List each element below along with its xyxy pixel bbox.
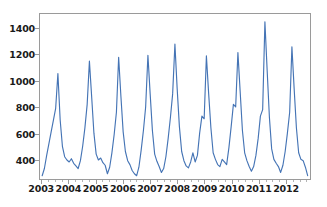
plot-area (39, 13, 311, 180)
y-tick-label-400: 400 (1, 155, 35, 166)
x-tick-label-2007: 2007 (137, 183, 163, 194)
x-minor-tick-mark (109, 180, 110, 182)
x-minor-tick-mark (245, 180, 246, 182)
x-tick-label-2012: 2012 (273, 183, 299, 194)
y-tick-label-1400: 1400 (1, 22, 35, 33)
x-minor-tick-mark (170, 180, 171, 182)
data-series-line (42, 22, 307, 176)
x-minor-tick-mark (279, 180, 280, 182)
x-minor-tick-mark (266, 180, 267, 182)
x-tick-label-2008: 2008 (164, 183, 190, 194)
x-minor-tick-mark (62, 180, 63, 182)
series-line-chart (40, 14, 310, 179)
x-minor-tick-mark (191, 180, 192, 182)
x-tick-label-2010: 2010 (219, 183, 245, 194)
y-tick-label-600: 600 (1, 128, 35, 139)
x-minor-tick-mark (293, 180, 294, 182)
x-minor-tick-mark (218, 180, 219, 182)
x-minor-tick-mark (75, 180, 76, 182)
x-minor-tick-mark (184, 180, 185, 182)
x-minor-tick-mark (306, 180, 307, 182)
y-tick-label-1200: 1200 (1, 49, 35, 60)
x-minor-tick-mark (164, 180, 165, 182)
x-minor-tick-mark (252, 180, 253, 182)
x-minor-tick-mark (300, 180, 301, 182)
x-minor-tick-mark (116, 180, 117, 182)
x-minor-tick-mark (143, 180, 144, 182)
x-minor-tick-mark (198, 180, 199, 182)
x-minor-tick-mark (102, 180, 103, 182)
x-minor-tick-mark (136, 180, 137, 182)
x-minor-tick-mark (272, 180, 273, 182)
y-tick-label-1000: 1000 (1, 75, 35, 86)
x-tick-label-2003: 2003 (28, 183, 54, 194)
x-tick-label-2005: 2005 (83, 183, 109, 194)
x-minor-tick-mark (130, 180, 131, 182)
x-minor-tick-mark (82, 180, 83, 182)
x-minor-tick-mark (238, 180, 239, 182)
figure: 400600800100012001400 200320042005200620… (0, 0, 327, 207)
x-tick-label-2006: 2006 (110, 183, 136, 194)
x-tick-label-2011: 2011 (246, 183, 272, 194)
x-minor-tick-mark (48, 180, 49, 182)
x-minor-tick-mark (225, 180, 226, 182)
x-minor-tick-mark (55, 180, 56, 182)
x-minor-tick-mark (89, 180, 90, 182)
x-minor-tick-mark (211, 180, 212, 182)
x-tick-label-2009: 2009 (192, 183, 218, 194)
x-tick-label-2004: 2004 (56, 183, 82, 194)
y-tick-label-800: 800 (1, 102, 35, 113)
x-minor-tick-mark (157, 180, 158, 182)
